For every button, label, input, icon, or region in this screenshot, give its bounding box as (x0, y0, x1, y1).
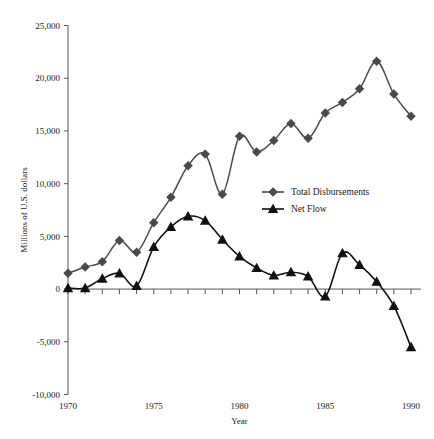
legend-item-total-disbursements[interactable]: Total Disbursements (262, 187, 370, 197)
data-point-marker-diamond (236, 133, 243, 140)
data-point-marker-diamond-legend (269, 188, 276, 195)
x-axis: 19701975198019851990 Year (59, 289, 421, 426)
data-series-group (64, 58, 416, 351)
y-tick-label: 25,000 (35, 21, 60, 31)
legend-label: Total Disbursements (291, 187, 370, 197)
series-total-disbursements (64, 58, 414, 277)
data-point-marker-triangle (407, 343, 416, 351)
x-tick-label: 1985 (316, 401, 335, 411)
x-tick-label: 1980 (231, 401, 250, 411)
chart-legend: Total DisbursementsNet Flow (262, 187, 370, 214)
data-point-marker-diamond (64, 270, 71, 277)
y-tick-label: 10,000 (35, 179, 60, 189)
legend-item-net-flow[interactable]: Net Flow (262, 204, 327, 214)
x-tick-label: 1990 (402, 401, 421, 411)
y-tick-label: 5,000 (40, 232, 61, 242)
data-point-marker-triangle (149, 243, 158, 251)
y-axis-tick-labels: 25,00020,00015,00010,0005,0000-5,000-10,… (32, 21, 60, 400)
data-point-marker-diamond (82, 263, 89, 270)
y-tick-label: -10,000 (32, 390, 60, 400)
data-point-marker-diamond (287, 120, 294, 127)
series-line (68, 216, 411, 347)
line-chart: 25,00020,00015,00010,0005,0000-5,000-10,… (0, 0, 434, 439)
y-axis-title: Millions of U.S. dollars (19, 167, 29, 253)
y-tick-label: 0 (56, 284, 61, 294)
series-net-flow (64, 212, 416, 351)
y-axis-ticks (64, 26, 68, 395)
chart-container: 25,00020,00015,00010,0005,0000-5,000-10,… (0, 0, 434, 439)
data-point-marker-triangle (390, 302, 399, 310)
data-point-marker-diamond (167, 194, 174, 201)
y-tick-label: -5,000 (37, 337, 61, 347)
data-point-marker-triangle (201, 216, 210, 224)
y-tick-label: 20,000 (35, 73, 60, 83)
data-point-marker-triangle (304, 272, 313, 280)
y-tick-label: 15,000 (35, 126, 60, 136)
data-point-marker-diamond (219, 191, 226, 198)
x-tick-label: 1970 (59, 401, 78, 411)
data-point-marker-triangle (252, 264, 261, 272)
x-axis-tick-labels: 19701975198019851990 (59, 401, 421, 411)
data-point-marker-diamond (202, 151, 209, 158)
x-tick-label: 1975 (145, 401, 164, 411)
x-axis-title: Year (231, 416, 248, 426)
data-point-marker-triangle (98, 274, 107, 282)
data-point-marker-triangle (338, 249, 347, 257)
y-axis: 25,00020,00015,00010,0005,0000-5,000-10,… (19, 21, 68, 400)
x-axis-ticks (68, 289, 411, 294)
legend-label: Net Flow (291, 204, 327, 214)
